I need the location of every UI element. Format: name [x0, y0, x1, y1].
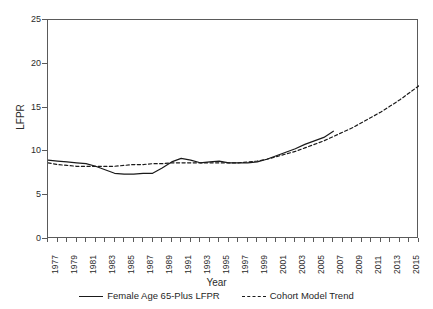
plot-area	[47, 19, 418, 238]
y-tick-label: 5	[36, 190, 41, 199]
x-tick-label: 1979	[70, 255, 79, 274]
x-tick-label: 2009	[355, 255, 364, 274]
x-tick-label: 1981	[89, 255, 98, 274]
x-tick-label: 1991	[184, 255, 193, 274]
x-tick-label: 1989	[165, 255, 174, 274]
x-tick-label: 1993	[203, 255, 212, 274]
x-tick-label: 1997	[241, 255, 250, 274]
x-tick-label: 1995	[222, 255, 231, 274]
legend-item[interactable]: Cohort Model Trend	[242, 291, 354, 301]
x-tick-label: 1999	[260, 255, 269, 274]
x-tick-label: 1987	[146, 255, 155, 274]
legend-item[interactable]: Female Age 65-Plus LFPR	[79, 291, 219, 301]
legend-solid-line-icon	[79, 296, 103, 297]
y-tick-label: 0	[36, 234, 41, 243]
series-line	[48, 86, 419, 167]
y-tick-label: 20	[31, 58, 41, 67]
x-tick-label: 1977	[51, 255, 60, 274]
chart-figure: 0510152025 LFPR 197719791981198319851987…	[0, 0, 433, 309]
x-axis-title: Year	[0, 278, 433, 288]
legend-dashed-line-icon	[242, 296, 266, 297]
x-tick-label: 2001	[279, 255, 288, 274]
x-tick-label: 2005	[317, 255, 326, 274]
x-tick-label: 2015	[412, 255, 421, 274]
legend-item-label: Female Age 65-Plus LFPR	[107, 291, 219, 301]
x-tick-label: 2011	[374, 256, 383, 274]
x-axis-tick-labels: 1977197919811983198519871989199119931995…	[47, 242, 418, 278]
x-tick-label: 1983	[108, 255, 117, 274]
y-tick-label: 25	[31, 15, 41, 24]
x-tick-label: 1985	[127, 255, 136, 274]
x-tick-label: 2013	[393, 255, 402, 274]
x-tick-label: 2007	[336, 255, 345, 274]
chart-legend: Female Age 65-Plus LFPRCohort Model Tren…	[0, 288, 433, 304]
y-tick-label: 15	[31, 102, 41, 111]
x-tick-label: 2003	[298, 255, 307, 274]
plot-series-svg	[48, 20, 419, 239]
y-tick-label: 10	[31, 146, 41, 155]
x-tick-mark	[418, 238, 419, 242]
legend-item-label: Cohort Model Trend	[270, 291, 354, 301]
y-axis-title: LFPR	[16, 87, 26, 147]
